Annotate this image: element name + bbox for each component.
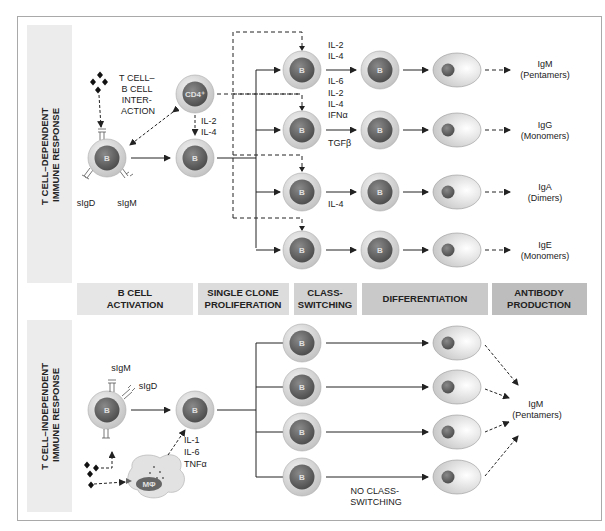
svg-text:SINGLE CLONEPROLIFERATION: SINGLE CLONEPROLIFERATION (205, 287, 282, 310)
svg-text:B: B (299, 339, 305, 348)
ti-antibody-label: IgM (Pentamers) (512, 399, 562, 420)
svg-text:ANTIBODYPRODUCTION: ANTIBODYPRODUCTION (507, 287, 571, 310)
svg-text:B: B (299, 246, 305, 255)
svg-text:B: B (299, 383, 305, 392)
svg-text:IgG(Monomers): IgG(Monomers) (521, 120, 570, 141)
antigen-binding-arrow (99, 95, 101, 127)
svg-text:B: B (299, 188, 305, 197)
sigd-label: sIgD (139, 381, 158, 391)
b-cell-label: B (192, 154, 198, 163)
b-cell-label: B (104, 406, 110, 415)
svg-text:IgA(Dimers): IgA(Dimers) (528, 182, 563, 203)
svg-text:DIFFERENTIATION: DIFFERENTIATION (383, 293, 468, 304)
svg-text:IL-2IL-4IL-6: IL-2IL-4IL-6 (328, 40, 344, 86)
cytokine-arrow (168, 430, 185, 455)
b-cell-label: B (192, 406, 198, 415)
svg-text:IL-4: IL-4 (328, 199, 344, 209)
svg-text:B: B (299, 473, 305, 482)
helper-cytokines: IL-2 IL-4 (201, 116, 219, 137)
sigm-label: sIgM (111, 363, 131, 373)
ti-rows: B B B B (256, 324, 481, 496)
macrophage: MΦ (126, 455, 184, 498)
svg-text:B: B (299, 428, 305, 437)
antigen-to-macrophage-arrow (94, 482, 125, 484)
svg-text:MΦ: MΦ (142, 480, 156, 489)
b-cell-label: B (104, 154, 110, 163)
cd4-label: CD4⁺ (185, 90, 205, 99)
antigen-binding-arrow (101, 452, 112, 468)
svg-text:B: B (299, 126, 305, 135)
antigen-icon (84, 462, 99, 489)
class-switch-rows: B IL-2IL-4IL-6 B IgM(Pentamers) B IL-2IL… (256, 40, 570, 269)
stage-bar: B CELLACTIVATION SINGLE CLONEPROLIFERATI… (77, 283, 587, 315)
svg-text:IgM(Pentamers): IgM(Pentamers) (520, 59, 570, 80)
no-class-switching-label: NO CLASS- SWITCHING (350, 486, 402, 507)
svg-text:B: B (377, 246, 383, 255)
svg-text:B: B (377, 126, 383, 135)
antigen-icon (90, 72, 108, 94)
sigd-label: sIgD (77, 198, 96, 208)
interaction-label: T CELL– B CELL INTER- ACTION (119, 73, 157, 116)
svg-text:B: B (377, 66, 383, 75)
svg-text:B: B (299, 66, 305, 75)
svg-text:IL-2IL-4IFNαTGFβ: IL-2IL-4IFNαTGFβ (328, 88, 351, 148)
svg-text:IgE(Monomers): IgE(Monomers) (521, 240, 570, 261)
tb-interaction-arrow (130, 112, 173, 145)
ti-cytokines: IL-1 IL-6 TNFα (184, 435, 207, 469)
immune-response-diagram: T CELL–DEPENDENT IMMUNE RESPONSE T CELL–… (0, 0, 605, 531)
top-panel-title: T CELL–DEPENDENT IMMUNE RESPONSE (39, 105, 61, 205)
sigm-label: sIgM (117, 198, 137, 208)
svg-text:B: B (377, 188, 383, 197)
bottom-panel-title: T CELL–INDEPENDENT IMMUNE RESPONSE (39, 360, 61, 469)
